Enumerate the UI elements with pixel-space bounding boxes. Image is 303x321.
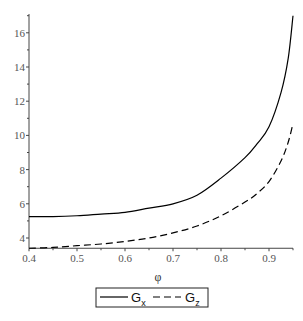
y-axis: 46810121416 <box>14 14 29 248</box>
series-line-gz <box>29 123 293 248</box>
y-tick-label: 12 <box>14 95 25 107</box>
x-axis-label: φ <box>155 270 162 284</box>
x-tick-label: 0.4 <box>22 252 36 264</box>
y-tick-label: 16 <box>14 27 26 39</box>
x-tick-label: 0.9 <box>262 252 276 264</box>
x-axis: 0.40.50.60.70.80.9 <box>22 248 293 264</box>
y-tick-label: 6 <box>20 198 26 210</box>
y-tick-label: 4 <box>20 232 26 244</box>
x-tick-label: 0.6 <box>118 252 132 264</box>
series-line-gx <box>29 16 293 217</box>
line-chart: 46810121416 0.40.50.60.70.80.9 φ Gx Gz <box>0 0 303 321</box>
y-tick-label: 8 <box>20 164 26 176</box>
x-tick-label: 0.8 <box>214 252 228 264</box>
x-tick-label: 0.5 <box>70 252 84 264</box>
y-tick-label: 14 <box>14 61 26 73</box>
y-tick-label: 10 <box>14 129 26 141</box>
series-layer <box>29 16 293 249</box>
legend: Gx Gz <box>96 288 208 308</box>
x-tick-label: 0.7 <box>166 252 180 264</box>
